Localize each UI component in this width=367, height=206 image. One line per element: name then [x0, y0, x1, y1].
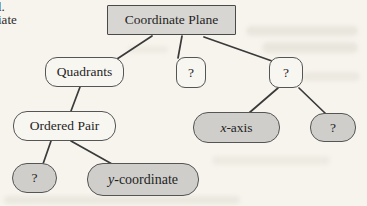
node-coordinate-plane: Coordinate Plane [107, 5, 236, 35]
node-label: ? [32, 171, 38, 185]
node-ordered-pair: Ordered Pair [13, 111, 116, 141]
edge-ordered-pair-question [43, 141, 51, 164]
node-label: Coordinate Plane [125, 13, 218, 27]
edge-root-quadrants [117, 36, 152, 59]
node-y-coordinate: y-coordinate [87, 163, 199, 196]
node-question-right: ? [269, 57, 303, 88]
node-label: ? [330, 121, 336, 135]
node-label: ? [188, 66, 194, 80]
node-question-middle: ? [176, 57, 206, 88]
node-label: Quadrants [57, 65, 112, 79]
edge-quadrants-ordered-pair [71, 87, 80, 111]
node-x-axis: x-axis [193, 112, 280, 143]
scanned-page: l. iate Coordinate Plane Quadrants ? ? O… [0, 0, 367, 206]
edge-question-right-question-far [299, 88, 326, 114]
node-question-bottom-left: ? [12, 163, 57, 193]
node-label: Ordered Pair [30, 119, 99, 133]
node-label: x-axis [220, 121, 252, 135]
edge-root-question-mid [178, 36, 182, 58]
edge-question-right-x-axis [249, 88, 278, 113]
node-question-far-right: ? [310, 113, 356, 142]
node-label: ? [283, 66, 289, 80]
node-quadrants: Quadrants [45, 57, 124, 87]
edge-root-question-right [204, 37, 272, 61]
edge-ordered-pair-y-coordinate [71, 141, 112, 164]
node-label: y-coordinate [108, 173, 178, 187]
